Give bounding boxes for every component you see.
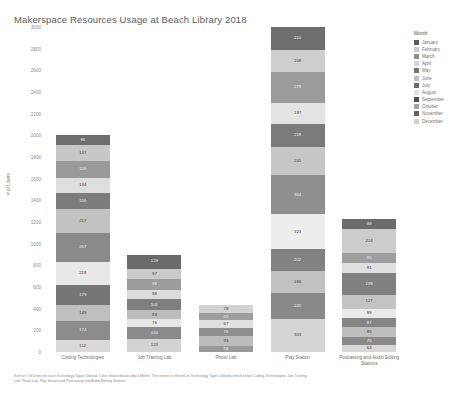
legend-item-label: March: [422, 54, 435, 59]
bar-segment[interactable]: 156: [56, 193, 110, 210]
y-axis-tick: 2400: [31, 90, 41, 95]
y-axis-tick: 3000: [31, 25, 41, 30]
bar-segment-value: 97: [152, 272, 157, 276]
legend-item[interactable]: August: [414, 89, 472, 96]
bar-segment[interactable]: 197: [271, 103, 325, 124]
legend-item[interactable]: March: [414, 53, 472, 60]
bar-segment[interactable]: 364: [271, 175, 325, 214]
legend-item[interactable]: May: [414, 67, 472, 74]
bar-segment[interactable]: 88: [127, 290, 181, 300]
bar-segment[interactable]: 196: [271, 271, 325, 292]
legend-item[interactable]: October: [414, 103, 472, 110]
bar-segment[interactable]: 210: [271, 27, 325, 50]
bar-segment-value: 255: [294, 159, 301, 163]
bar-segment[interactable]: 78: [199, 305, 253, 313]
bar-segment[interactable]: 76: [342, 337, 396, 345]
bar-segment[interactable]: 245: [271, 293, 325, 320]
bar-segment[interactable]: 112: [56, 340, 110, 352]
bar-segment[interactable]: 323: [271, 214, 325, 249]
bar-segment-value: 323: [294, 230, 301, 234]
bar-segment-value: 88: [367, 222, 372, 226]
bar-segment[interactable]: 76: [127, 319, 181, 327]
bar-segment-value: 76: [367, 339, 372, 343]
bar-segment-value: 202: [294, 258, 301, 262]
bar-stack[interactable]: 1299798881018376104123: [127, 255, 181, 352]
bar-segment-value: 197: [294, 111, 301, 115]
bar-stack[interactable]: 786567769356: [199, 305, 253, 352]
bar-segment[interactable]: 218: [271, 124, 325, 148]
legend-item-label: June: [422, 76, 432, 81]
bar-segment[interactable]: 67: [199, 320, 253, 327]
bar-stack[interactable]: 96147158134156217267218179149174112: [56, 135, 110, 352]
bar-segment-value: 267: [79, 245, 86, 249]
y-axis-tick: 2000: [31, 133, 41, 138]
bar-segment[interactable]: 101: [127, 299, 181, 310]
bar-segment[interactable]: 174: [56, 321, 110, 340]
bar-segment-value: 93: [224, 339, 229, 343]
bar-segment[interactable]: 97: [127, 269, 181, 280]
bar-segment[interactable]: 93: [199, 336, 253, 346]
bar-segment[interactable]: 217: [56, 209, 110, 233]
bar-segment[interactable]: 303: [271, 319, 325, 352]
bar-segment-value: 218: [294, 133, 301, 137]
bar-segment[interactable]: 88: [342, 219, 396, 229]
bar-segment-value: 224: [366, 239, 373, 243]
legend-item[interactable]: February: [414, 46, 472, 53]
bar-segment[interactable]: 83: [127, 310, 181, 319]
y-axis-tick: 1600: [31, 176, 41, 181]
bar-segment[interactable]: 267: [56, 233, 110, 262]
y-axis-tick: 1200: [31, 220, 41, 225]
bar-segment-value: 98: [152, 282, 157, 286]
bar-segment[interactable]: 56: [199, 346, 253, 352]
bar-segment[interactable]: 76: [199, 328, 253, 336]
bar-segment[interactable]: 279: [271, 72, 325, 102]
bar-segment-value: 364: [294, 193, 301, 197]
bar-segment[interactable]: 123: [127, 339, 181, 352]
bar-segment[interactable]: 134: [56, 178, 110, 193]
legend-item-label: February: [422, 47, 440, 52]
legend-item[interactable]: April: [414, 60, 472, 67]
legend-item[interactable]: July: [414, 82, 472, 89]
bar-segment[interactable]: 179: [56, 285, 110, 304]
bar-segment[interactable]: 158: [56, 161, 110, 178]
bar-segment[interactable]: 88: [342, 309, 396, 319]
bar-segment-value: 156: [79, 199, 86, 203]
bar-segment[interactable]: 255: [271, 147, 325, 175]
legend-item-label: October: [422, 104, 438, 109]
bar-segment[interactable]: 87: [342, 318, 396, 327]
chart-page: Makerspace Resources Usage at Beach Libr…: [0, 0, 474, 395]
bar-segment[interactable]: 199: [342, 273, 396, 295]
bar-segment[interactable]: 202: [271, 249, 325, 271]
bar-segment[interactable]: 208: [271, 50, 325, 73]
legend-item[interactable]: June: [414, 74, 472, 81]
bar-segment[interactable]: 86: [342, 327, 396, 336]
page-title: Makerspace Resources Usage at Beach Libr…: [14, 14, 247, 25]
legend-item[interactable]: January: [414, 39, 472, 46]
bar-segment-value: 88: [152, 292, 157, 296]
bar-segment[interactable]: 98: [127, 279, 181, 290]
bar-segment[interactable]: 96: [56, 135, 110, 145]
bar-stack[interactable]: 210208279197218255364323202196245303: [271, 27, 325, 352]
bar-segment[interactable]: 91: [342, 263, 396, 273]
y-axis-title: # of Users: [6, 173, 11, 195]
legend-item[interactable]: November: [414, 110, 472, 117]
bar-segment-value: 174: [79, 328, 86, 332]
bar-segment[interactable]: 224: [342, 229, 396, 253]
bar-segment[interactable]: 149: [56, 305, 110, 321]
bar-segment[interactable]: 218: [56, 262, 110, 286]
bar-segment[interactable]: 95: [342, 253, 396, 263]
bar-segment[interactable]: 127: [342, 295, 396, 309]
bar-segment[interactable]: 104: [127, 327, 181, 338]
legend-item-label: December: [422, 119, 443, 124]
bar-segment[interactable]: 129: [127, 255, 181, 269]
legend-item[interactable]: December: [414, 118, 472, 125]
bar-stack[interactable]: 8822495911991278887867664: [342, 219, 396, 352]
x-axis-label: Play Station: [262, 355, 334, 361]
legend-color-swatch: [414, 61, 419, 66]
bar-segment-value: 64: [367, 346, 372, 350]
bar-segment[interactable]: 64: [342, 345, 396, 352]
bar-segment-value: 208: [294, 59, 301, 63]
bar-segment[interactable]: 65: [199, 313, 253, 320]
legend-item[interactable]: September: [414, 96, 472, 103]
bar-segment[interactable]: 147: [56, 145, 110, 161]
